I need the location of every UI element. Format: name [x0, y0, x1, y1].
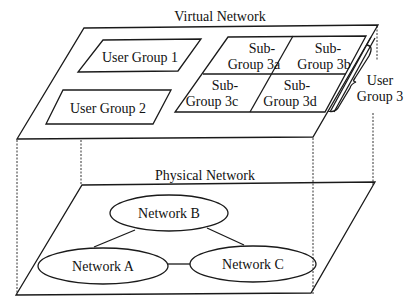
subgroup-3c-line1: Sub- [212, 78, 239, 93]
virtual-network-title: Virtual Network [174, 9, 265, 24]
network-a-node: Network A [38, 248, 168, 284]
network-a-label: Network A [72, 259, 135, 274]
virtual-network-plane: Virtual Network User Group 1 User Group … [17, 9, 403, 139]
link-b-c [207, 228, 244, 245]
network-b-label: Network B [138, 206, 200, 221]
network-c-node: Network C [190, 246, 316, 282]
network-diagram: Virtual Network User Group 1 User Group … [0, 0, 418, 306]
physical-network-title: Physical Network [155, 168, 255, 183]
user-group-3-label-line1: User [367, 73, 394, 88]
link-a-b [94, 230, 135, 247]
subgroup-3a-line1: Sub- [249, 41, 276, 56]
user-group-1: User Group 1 [78, 39, 201, 72]
physical-network-plane-outline [16, 182, 375, 295]
user-group-3-subgroups: Sub- Group 3a Sub- Group 3b Sub- Group 3… [175, 36, 375, 112]
user-group-3-label-line2: Group 3 [357, 89, 403, 104]
user-group-2: User Group 2 [46, 90, 171, 124]
user-group-1-label: User Group 1 [102, 50, 178, 65]
subgroup-3d-line2: Group 3d [263, 94, 316, 109]
network-c-label: Network C [222, 257, 284, 272]
subgroup-3d-line1: Sub- [284, 78, 311, 93]
network-b-node: Network B [110, 195, 228, 231]
user-group-2-label: User Group 2 [70, 101, 146, 116]
subgroup-3b-line2: Group 3b [297, 57, 350, 72]
subgroup-3c-line2: Group 3c [186, 94, 239, 109]
subgroup-3b-line1: Sub- [315, 41, 342, 56]
subgroup-3a-line2: Group 3a [228, 57, 281, 72]
physical-network-plane: Physical Network Network B Network A Net… [16, 168, 375, 295]
